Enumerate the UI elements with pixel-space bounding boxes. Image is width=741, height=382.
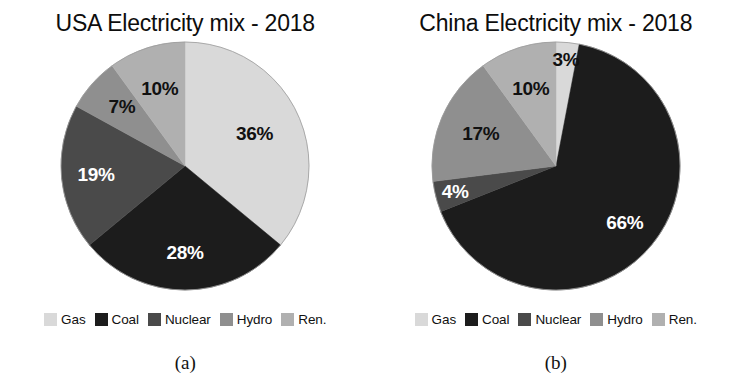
legend-item-coal[interactable]: Coal <box>465 312 509 327</box>
pie-slice-label-hydro: 7% <box>109 96 136 117</box>
legend-label-ren: Ren. <box>669 312 697 327</box>
chart-panel-china: China Electricity mix - 2018 3%66%4%17%1… <box>371 0 741 382</box>
legend-swatch-hydro-icon <box>220 313 233 326</box>
pie-slice-label-coal: 66% <box>606 212 644 233</box>
legend-item-coal[interactable]: Coal <box>95 312 139 327</box>
legend-label-coal: Coal <box>112 312 139 327</box>
legend-label-nuclear: Nuclear <box>165 312 211 327</box>
legend-item-ren[interactable]: Ren. <box>652 312 697 327</box>
subfigure-caption-a: (a) <box>0 352 371 374</box>
subfigure-caption-b: (b) <box>371 352 741 374</box>
legend-swatch-hydro-icon <box>590 313 603 326</box>
legend-label-hydro: Hydro <box>237 312 273 327</box>
pie-slice-label-nuclear: 19% <box>78 164 116 185</box>
legend-swatch-gas-icon <box>415 313 428 326</box>
legend-china: Gas Coal Nuclear Hydro Ren. <box>371 312 741 327</box>
legend-swatch-nuclear-icon <box>518 313 531 326</box>
legend-label-gas: Gas <box>61 312 85 327</box>
chart-title-usa: USA Electricity mix - 2018 <box>0 10 371 37</box>
legend-item-hydro[interactable]: Hydro <box>220 312 273 327</box>
legend-item-gas[interactable]: Gas <box>44 312 85 327</box>
legend-swatch-ren-icon <box>652 313 665 326</box>
legend-swatch-coal-icon <box>465 313 478 326</box>
legend-item-nuclear[interactable]: Nuclear <box>518 312 581 327</box>
legend-swatch-coal-icon <box>95 313 108 326</box>
legend-item-nuclear[interactable]: Nuclear <box>148 312 211 327</box>
pie-slice-label-coal: 28% <box>167 242 205 263</box>
legend-usa: Gas Coal Nuclear Hydro Ren. <box>0 312 371 327</box>
pie-slice-label-hydro: 17% <box>462 123 500 144</box>
legend-swatch-ren-icon <box>281 313 294 326</box>
legend-label-gas: Gas <box>432 312 456 327</box>
pie-slice-label-ren: 10% <box>512 78 550 99</box>
figure-container: USA Electricity mix - 2018 36%28%19%7%10… <box>0 0 741 382</box>
chart-panel-usa: USA Electricity mix - 2018 36%28%19%7%10… <box>0 0 371 382</box>
legend-label-ren: Ren. <box>298 312 326 327</box>
legend-label-hydro: Hydro <box>607 312 643 327</box>
pie-slices <box>432 42 680 290</box>
pie-slice-label-gas: 3% <box>552 49 579 70</box>
pie-slice-label-ren: 10% <box>141 78 179 99</box>
legend-swatch-nuclear-icon <box>148 313 161 326</box>
legend-label-nuclear: Nuclear <box>535 312 581 327</box>
legend-item-ren[interactable]: Ren. <box>281 312 326 327</box>
legend-item-hydro[interactable]: Hydro <box>590 312 643 327</box>
pie-slice-label-gas: 36% <box>236 123 274 144</box>
pie-chart-usa: 36%28%19%7%10% <box>0 41 371 291</box>
legend-item-gas[interactable]: Gas <box>415 312 456 327</box>
pie-chart-china: 3%66%4%17%10% <box>371 41 741 291</box>
pie-svg-china: 3%66%4%17%10% <box>371 41 741 291</box>
chart-title-china: China Electricity mix - 2018 <box>371 10 741 37</box>
legend-swatch-gas-icon <box>44 313 57 326</box>
pie-svg-usa: 36%28%19%7%10% <box>0 41 370 291</box>
legend-label-coal: Coal <box>482 312 509 327</box>
pie-slice-label-nuclear: 4% <box>441 181 468 202</box>
